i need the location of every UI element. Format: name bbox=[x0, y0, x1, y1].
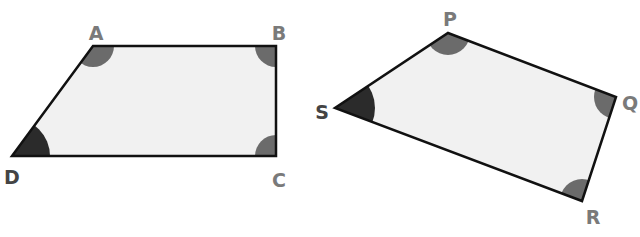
vertex-label-a: A bbox=[89, 22, 104, 44]
quadrilateral-abcd: A B C D bbox=[0, 22, 297, 194]
vertex-label-q: Q bbox=[622, 92, 638, 114]
quadrilateral-pqrs-fill bbox=[335, 33, 616, 201]
vertex-label-r: R bbox=[586, 206, 601, 228]
vertex-label-p: P bbox=[443, 8, 457, 30]
vertex-label-s: S bbox=[315, 101, 329, 123]
quadrilaterals-diagram: A B C D P Q R S bbox=[0, 0, 640, 237]
vertex-label-d: D bbox=[4, 166, 20, 188]
vertex-label-c: C bbox=[272, 169, 286, 191]
vertex-label-b: B bbox=[272, 22, 286, 44]
quadrilateral-pqrs: P Q R S bbox=[295, 8, 638, 228]
